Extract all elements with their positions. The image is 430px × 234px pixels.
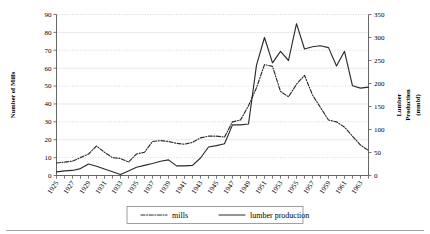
legend-label-mills: mills bbox=[172, 211, 188, 220]
left-axis-title: Number of Mills bbox=[9, 71, 16, 118]
x-tick-label-1957: 1957 bbox=[302, 179, 317, 195]
x-tick-label-1933: 1933 bbox=[110, 179, 125, 195]
left-tick-label-20: 20 bbox=[45, 136, 53, 144]
x-tick-label-1949: 1949 bbox=[238, 179, 253, 195]
data-series bbox=[57, 24, 369, 175]
legend-label-lumber-production: lumber production bbox=[250, 211, 309, 220]
right-tick-label-200: 200 bbox=[374, 80, 385, 88]
chart-legend: millslumber production bbox=[127, 207, 309, 224]
axes bbox=[54, 15, 372, 179]
svg-text:Number of Mills: Number of Mills bbox=[9, 71, 16, 118]
x-tick-label-1939: 1939 bbox=[158, 179, 173, 195]
x-tick-label-1955: 1955 bbox=[286, 179, 301, 195]
left-tick-label-90: 90 bbox=[45, 11, 53, 19]
x-tick-label-1945: 1945 bbox=[206, 179, 221, 195]
right-tick-label-100: 100 bbox=[374, 126, 385, 134]
y-axis-tick-labels: 0102030405060708090 bbox=[45, 11, 53, 180]
x-tick-label-1925: 1925 bbox=[46, 179, 61, 195]
x-axis-tick-labels: 1925192719291931193319351937193919411943… bbox=[46, 179, 365, 195]
svg-text:Lumber: Lumber bbox=[395, 93, 402, 116]
left-tick-label-70: 70 bbox=[45, 47, 53, 55]
chart-container: 1925192719291931193319351937193919411943… bbox=[0, 0, 430, 234]
right-axis-title: LumberProduction(mmbf) bbox=[395, 89, 422, 121]
left-tick-label-50: 50 bbox=[45, 82, 53, 90]
x-tick-label-1953: 1953 bbox=[270, 179, 285, 195]
x-tick-label-1963: 1963 bbox=[350, 179, 365, 195]
axis-titles: Number of MillsLumberProduction(mmbf) bbox=[9, 71, 422, 120]
x-tick-label-1941: 1941 bbox=[174, 179, 189, 195]
secondary-y-axis-tick-labels: 050100150200250300350 bbox=[374, 11, 385, 180]
right-tick-label-0: 0 bbox=[374, 172, 378, 180]
right-tick-label-300: 300 bbox=[374, 34, 385, 42]
left-tick-label-0: 0 bbox=[48, 172, 52, 180]
series-line-lumber-production bbox=[57, 24, 369, 175]
x-tick-label-1931: 1931 bbox=[94, 179, 109, 195]
left-tick-label-60: 60 bbox=[45, 65, 53, 73]
left-tick-label-80: 80 bbox=[45, 29, 53, 37]
x-tick-label-1929: 1929 bbox=[78, 179, 93, 195]
lumber-mills-line-chart: 1925192719291931193319351937193919411943… bbox=[0, 0, 430, 234]
x-tick-label-1927: 1927 bbox=[62, 179, 77, 195]
x-tick-label-1961: 1961 bbox=[334, 179, 349, 195]
right-tick-label-50: 50 bbox=[374, 149, 382, 157]
x-tick-label-1943: 1943 bbox=[190, 179, 205, 195]
series-line-mills bbox=[57, 65, 369, 163]
right-tick-label-250: 250 bbox=[374, 57, 385, 65]
left-tick-label-30: 30 bbox=[45, 118, 53, 126]
x-tick-label-1959: 1959 bbox=[318, 179, 333, 195]
right-tick-label-150: 150 bbox=[374, 103, 385, 111]
left-tick-label-40: 40 bbox=[45, 100, 53, 108]
x-tick-label-1935: 1935 bbox=[126, 179, 141, 195]
x-tick-label-1947: 1947 bbox=[222, 179, 237, 195]
x-tick-label-1951: 1951 bbox=[254, 179, 269, 195]
svg-text:(mmbf): (mmbf) bbox=[414, 94, 422, 115]
x-tick-label-1937: 1937 bbox=[142, 179, 157, 195]
svg-text:Production: Production bbox=[404, 89, 411, 121]
right-tick-label-350: 350 bbox=[374, 11, 385, 19]
left-tick-label-10: 10 bbox=[45, 154, 53, 162]
